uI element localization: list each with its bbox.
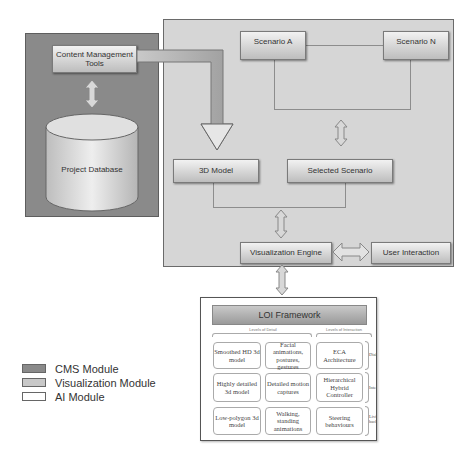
scenario-connector-bottom <box>274 60 411 110</box>
loi-cell: Highly detailed 3d model <box>213 373 261 402</box>
row-label-dialogue: Dialogue <box>369 352 377 357</box>
project-database-icon <box>44 113 140 213</box>
horizontal-double-arrow-icon <box>333 242 369 262</box>
3d-model-node: 3D Model <box>173 159 259 183</box>
loi-framework-title-label: LOI Framework <box>258 310 320 320</box>
row-label-interaction: Interaction <box>369 385 377 390</box>
double-arrow-icon <box>84 80 100 108</box>
loi-cell: Low-polygon 3d model <box>213 407 261 435</box>
3d-model-label: 3D Model <box>199 166 233 175</box>
selected-scenario-node: Selected Scenario <box>287 159 393 183</box>
legend-swatch-cms <box>22 364 46 373</box>
legend-label-ai: AI Module <box>55 391 105 403</box>
levels-of-interaction-header: Levels of Interaction <box>315 327 373 332</box>
scenario-n-label: Scenario N <box>396 37 436 46</box>
levels-of-detail-header: Levels of Detail <box>213 327 313 332</box>
legend-swatch-ai <box>22 392 46 401</box>
model-scenario-connector <box>213 183 346 208</box>
legend-item-ai: AI Module <box>22 390 156 403</box>
scenario-a-node: Scenario A <box>240 31 306 60</box>
interaction-bracket <box>316 333 372 337</box>
legend-item-cms: CMS Module <box>22 362 156 375</box>
row-label-living-background: Living background <box>369 414 377 425</box>
loi-cell: Steering behaviours <box>316 407 363 435</box>
content-management-tools-node: Content Management Tools <box>52 45 137 73</box>
loi-framework-title: LOI Framework <box>212 305 367 325</box>
user-interaction-node: User Interaction <box>371 242 451 264</box>
detail-bracket <box>212 333 312 337</box>
loi-cell: Smoothed HD 3d model <box>213 342 261 369</box>
legend-label-cms: CMS Module <box>55 363 119 375</box>
cms-to-model-arrow-icon <box>137 48 237 158</box>
scenario-a-label: Scenario A <box>254 37 293 46</box>
content-management-tools-label: Content Management Tools <box>53 50 136 68</box>
selected-scenario-label: Selected Scenario <box>308 166 373 175</box>
visualization-engine-node: Visualization Engine <box>240 242 332 264</box>
double-arrow-icon <box>334 120 348 146</box>
loi-cell: ECA Architecture <box>316 342 363 369</box>
legend-swatch-visualization <box>22 378 46 387</box>
project-database-label: Project Database <box>44 165 140 174</box>
loi-cell: Walking, standing animations <box>265 407 311 435</box>
user-interaction-label: User Interaction <box>383 248 439 257</box>
double-arrow-icon <box>275 265 289 295</box>
visualization-engine-label: Visualization Engine <box>250 248 322 257</box>
loi-cell: Facial animations, postures, gestures <box>265 342 311 369</box>
loi-cell: Hierarchical Hybrid Controller <box>316 373 363 402</box>
scenario-n-node: Scenario N <box>383 31 449 60</box>
legend-item-visualization: Visualization Module <box>22 376 156 389</box>
legend: CMS Module Visualization Module AI Modul… <box>22 362 156 403</box>
legend-label-visualization: Visualization Module <box>55 377 156 389</box>
double-arrow-icon <box>274 210 288 238</box>
loi-cell: Detailed motion captures <box>265 373 311 402</box>
